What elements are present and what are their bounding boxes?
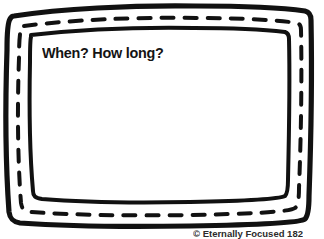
worksheet-page: When? How long? © Eternally Focused 182	[0, 0, 324, 239]
doodle-frame	[0, 0, 324, 239]
prompt-text: When? How long?	[42, 45, 164, 61]
footer-credit: © Eternally Focused 182	[193, 229, 303, 239]
